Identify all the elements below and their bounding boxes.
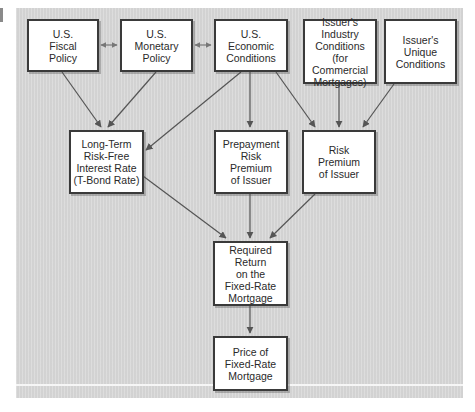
node-required-return: Required Return on the Fixed-Rate Mortga… <box>213 241 288 306</box>
node-issuer-industry-conditions: Issuer's Industry Conditions (for Commer… <box>303 19 377 84</box>
edge-fiscal-riskfree <box>62 72 101 127</box>
node-label: U.S. Fiscal Policy <box>49 28 77 64</box>
node-label: U.S. Monetary Policy <box>135 28 179 64</box>
node-us-fiscal-policy: U.S. Fiscal Policy <box>27 19 99 72</box>
edge-unique-riskpremium <box>363 84 394 127</box>
node-risk-premium-of-issuer: Risk Premium of Issuer <box>302 130 376 194</box>
node-label: Price of Fixed-Rate Mortgage <box>225 346 276 382</box>
node-label: Long-Term Risk-Free Interest Rate (T-Bon… <box>74 138 140 186</box>
node-long-term-risk-free-rate: Long-Term Risk-Free Interest Rate (T-Bon… <box>69 130 144 194</box>
node-price-of-mortgage: Price of Fixed-Rate Mortgage <box>213 336 288 391</box>
node-label: Risk Premium of Issuer <box>318 144 360 180</box>
node-label: U.S. Economic Conditions <box>226 28 276 64</box>
node-label: Prepayment Risk Premium of Issuer <box>223 138 280 186</box>
node-issuer-unique-conditions: Issuer's Unique Conditions <box>384 19 457 84</box>
node-us-economic-conditions: U.S. Economic Conditions <box>214 19 288 72</box>
edge-monetary-riskfree <box>108 72 156 127</box>
node-label: Issuer's Unique Conditions <box>396 34 446 70</box>
node-prepayment-risk-premium: Prepayment Risk Premium of Issuer <box>214 130 288 194</box>
node-label: Required Return on the Fixed-Rate Mortga… <box>217 244 284 304</box>
node-us-monetary-policy: U.S. Monetary Policy <box>120 19 193 72</box>
node-label: Issuer's Industry Conditions (for Commer… <box>307 16 373 88</box>
edge-riskpremium-required <box>270 194 315 238</box>
